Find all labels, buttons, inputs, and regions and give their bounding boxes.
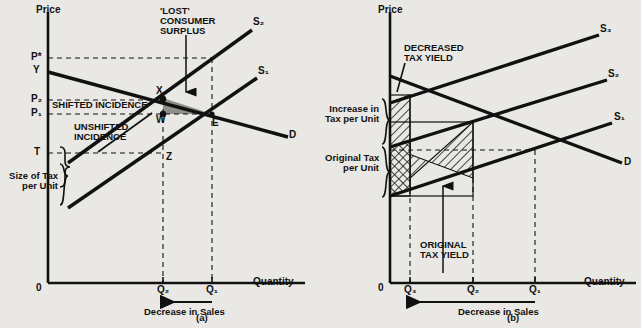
panel-b-quantity-tick-q3: Q₃ bbox=[404, 285, 416, 296]
original-tax-per-unit-label: Original Tax per Unit bbox=[325, 153, 379, 173]
panel-a-curve-label-s2: S₂ bbox=[253, 17, 264, 28]
panel-b-y-axis-label: Price bbox=[378, 5, 402, 16]
panel-a-curve-label-s1: S₁ bbox=[258, 66, 269, 77]
panel-a-price-tick-y: Y bbox=[33, 65, 40, 76]
point-e bbox=[209, 111, 214, 116]
panel-b-curve-label-s1: S₁ bbox=[614, 112, 625, 123]
panel-a-x-axis-label: Quantity bbox=[253, 277, 294, 288]
panel-b-quantity-tick-q2: Q₂ bbox=[467, 285, 479, 296]
panel-a bbox=[48, 12, 305, 302]
panel-a-origin-label: 0 bbox=[36, 283, 42, 294]
panel-b-demand-curve bbox=[390, 76, 622, 163]
panel-a-guides bbox=[48, 58, 212, 283]
panel-a-caption: (a) bbox=[196, 313, 208, 323]
tax-yield-overlap-region bbox=[390, 140, 410, 196]
panel-a-price-tick-pstar: P* bbox=[31, 52, 42, 63]
shifted-incidence-label: SHIFTED INCIDENCE bbox=[52, 100, 148, 110]
panel-a-decrease-in-sales-label: Decrease in Sales bbox=[144, 307, 225, 317]
panel-b-curve-label-d: D bbox=[624, 157, 631, 168]
panel-a-quantity-tick-q1: Q₁ bbox=[206, 285, 218, 296]
panel-b-quantity-tick-q1: Q₁ bbox=[529, 285, 541, 296]
panel-b-curve-label-s2: S₂ bbox=[608, 69, 619, 80]
panel-a-price-tick-p2: P₂ bbox=[31, 94, 42, 105]
panel-a-price-tick-p1: P₁ bbox=[31, 108, 42, 119]
panel-a-point-label-w: W bbox=[156, 115, 165, 126]
size-of-tax-per-unit-label: Size of Tax per Unit bbox=[3, 171, 58, 191]
unshifted-incidence-label: UNSHIFTED INCIDENCE bbox=[74, 122, 128, 142]
tax-incidence-figure bbox=[0, 0, 641, 328]
increase-in-tax-per-unit-label: Increase in Tax per Unit bbox=[325, 104, 379, 124]
panel-a-point-label-z: Z bbox=[166, 152, 172, 163]
panel-a-point-label-x: X bbox=[156, 86, 163, 97]
panel-b-origin-label: 0 bbox=[378, 283, 384, 294]
panel-a-point-label-e: E bbox=[212, 118, 219, 129]
panel-b-x-axis-label: Quantity bbox=[584, 277, 625, 288]
decreased-tax-yield-label: DECREASED TAX YIELD bbox=[404, 43, 464, 63]
original-tax-yield-label: ORIGINAL TAX YIELD bbox=[420, 240, 469, 260]
panel-a-quantity-tick-q2: Q₂ bbox=[157, 285, 169, 296]
panel-a-curve-label-d: D bbox=[289, 130, 296, 141]
panel-b-caption: (b) bbox=[507, 313, 519, 323]
size-of-tax-brace-outer bbox=[60, 164, 68, 205]
panel-a-y-axis-label: Price bbox=[36, 5, 60, 16]
point-x bbox=[160, 96, 166, 102]
lost-consumer-surplus-label: 'LOST' CONSUMER SURPLUS bbox=[160, 6, 215, 36]
panel-b-curve-label-s3: S₃ bbox=[600, 24, 611, 35]
panel-a-price-tick-t: T bbox=[34, 147, 40, 158]
panel-b-decrease-in-sales-label: Decrease in Sales bbox=[458, 307, 539, 317]
